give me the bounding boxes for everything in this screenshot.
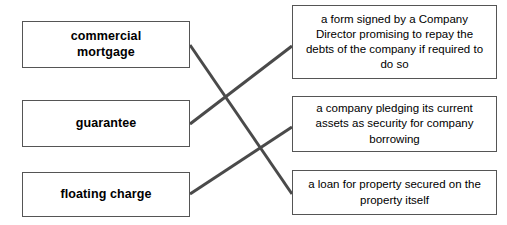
connector-guarantee-to-form-signed	[190, 46, 292, 124]
term-label-commercial-mortgage: commercial mortgage	[23, 29, 189, 60]
term-label-guarantee: guarantee	[23, 116, 189, 132]
definition-box-floating-charge[interactable]: a company pledging its current assets as…	[292, 96, 497, 152]
term-box-commercial-mortgage[interactable]: commercial mortgage	[22, 21, 190, 68]
definition-label-commercial-mortgage: a loan for property secured on the prope…	[301, 177, 488, 207]
definition-box-commercial-mortgage[interactable]: a loan for property secured on the prope…	[292, 170, 497, 215]
definition-label-guarantee: a form signed by a Company Director prom…	[301, 12, 488, 73]
term-box-guarantee[interactable]: guarantee	[22, 100, 190, 147]
matching-diagram: commercial mortgage guarantee floating c…	[0, 0, 507, 225]
connector-floating-charge-to-pledging	[190, 127, 292, 194]
term-box-floating-charge[interactable]: floating charge	[22, 172, 190, 217]
definition-label-floating-charge: a company pledging its current assets as…	[301, 101, 488, 147]
definition-box-guarantee[interactable]: a form signed by a Company Director prom…	[292, 5, 497, 79]
term-label-floating-charge: floating charge	[23, 187, 189, 203]
connector-commercial-mortgage-to-loan	[190, 45, 292, 194]
